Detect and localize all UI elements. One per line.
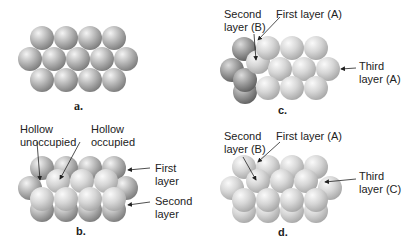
label-line: layer (A) (359, 73, 401, 86)
label-d-first-layer: First layer (A) (276, 130, 342, 143)
caption-c: c. (278, 104, 287, 116)
label-line: Hollow (20, 123, 76, 136)
caption-a: a. (74, 99, 83, 114)
label-line: layer (155, 208, 192, 221)
label-line: Third (359, 60, 401, 73)
caption-d: d. (278, 226, 288, 238)
panel-d-layers (220, 155, 342, 223)
label-line: unoccupied (20, 136, 76, 149)
label-hollow-unoccupied: Hollow unoccupied (20, 123, 76, 149)
label-c-second-layer: Second layer (B) (224, 8, 266, 34)
label-line: occupied (91, 136, 135, 149)
label-line: Second (155, 195, 192, 208)
panel-c-layers (220, 36, 340, 104)
label-line: Second (224, 8, 266, 21)
label-c-first-layer: First layer (A) (276, 8, 342, 21)
label-line: layer (155, 175, 179, 188)
caption-b: b. (76, 225, 86, 237)
label-line: layer (B) (224, 143, 266, 156)
label-d-third-layer: Third layer (C) (359, 170, 401, 196)
label-d-second-layer: Second layer (B) (224, 130, 266, 156)
label-line: Hollow (91, 123, 135, 136)
label-line: layer (C) (359, 183, 401, 196)
label-line: Third (359, 170, 401, 183)
label-line: Second (224, 130, 266, 143)
label-line: layer (B) (224, 21, 266, 34)
label-hollow-occupied: Hollow occupied (91, 123, 135, 149)
label-line: First (155, 162, 179, 175)
panel-a-layer (18, 26, 138, 92)
label-b-first-layer: First layer (155, 162, 179, 188)
label-c-third-layer: Third layer (A) (359, 60, 401, 86)
label-b-second-layer: Second layer (155, 195, 192, 221)
